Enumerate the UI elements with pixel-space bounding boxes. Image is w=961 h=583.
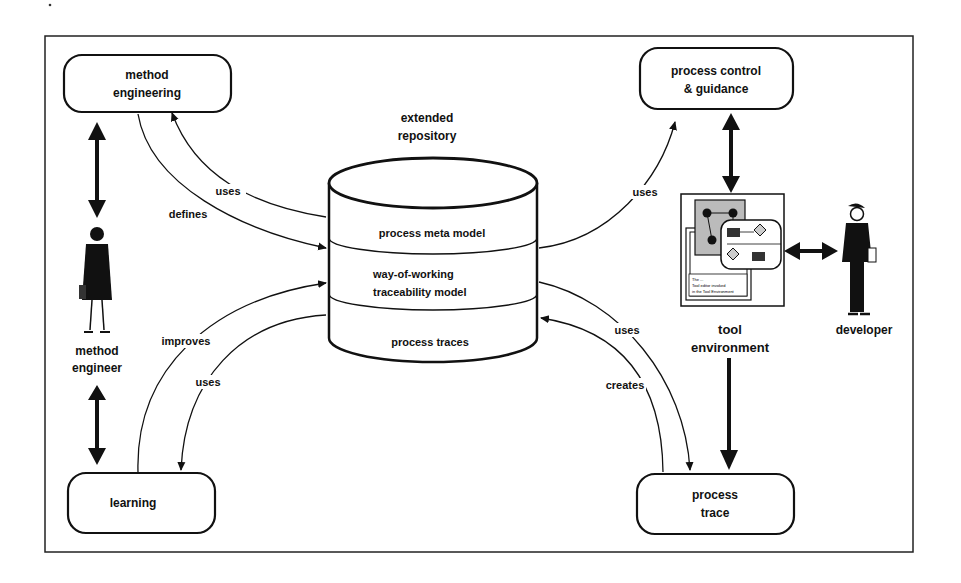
tool-environment-label: tool [718,322,742,337]
edge-label-improves: improves [162,335,211,347]
actor-label: engineer [72,361,122,375]
double-arrow-engineer-learning [88,385,106,465]
edge-label-creates: creates [606,379,645,391]
speck [49,4,52,7]
edge-uses-process-trace [539,282,690,470]
node-process-trace[interactable]: process trace [637,474,794,534]
actor-label: method [75,344,118,358]
diagram-canvas: method engineering process control & gui… [0,0,961,583]
node-process-control[interactable]: process control & guidance [640,48,793,109]
node-label: process [692,488,738,502]
double-arrow-control-tool [722,113,740,193]
actor-label: developer [836,323,893,337]
edge-defines [138,114,326,248]
screen-text: Tool editor invoked [692,283,725,288]
developer-person-icon [842,203,876,314]
screen-text: in the Tool Environment [692,289,735,294]
layer-way-of-working: way-of-working [372,268,454,280]
node-label: learning [110,496,157,510]
arrow-tool-trace [720,358,738,470]
node-label: trace [701,506,730,520]
edge-label-uses: uses [614,324,639,336]
edge-label-uses: uses [195,376,220,388]
repository-title: repository [398,129,457,143]
layer-process-traces: process traces [391,336,469,348]
edge-label-uses: uses [215,185,240,197]
repository-cylinder[interactable]: extended repository process meta model w… [329,111,537,362]
double-arrow-tool-developer [784,242,838,260]
double-arrow-me-engineer [88,122,106,218]
node-label: engineering [113,86,181,100]
node-label: process control [671,64,761,78]
edge-uses-method-engineering [172,113,326,217]
node-label: method [125,68,168,82]
node-method-engineering[interactable]: method engineering [64,55,231,112]
edge-improves [138,283,326,472]
node-label: & guidance [684,82,749,96]
edge-label-defines: defines [169,208,208,220]
screen-text: The ... [692,277,703,282]
edge-label-uses: uses [632,186,657,198]
layer-process-meta-model: process meta model [379,227,485,239]
repository-title: extended [401,111,454,125]
method-engineer-person-icon [79,227,112,332]
tool-environment-label: environment [691,340,770,355]
edge-creates [541,318,663,472]
node-learning[interactable]: learning [68,473,215,533]
tool-environment-screenshot[interactable]: The ... Tool editor invoked in the Tool … [681,194,784,306]
layer-traceability-model: traceability model [373,286,467,298]
